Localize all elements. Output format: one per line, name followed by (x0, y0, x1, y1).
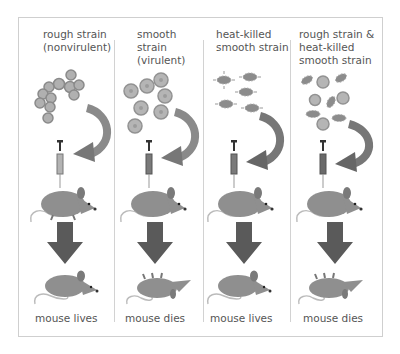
mouse-alive-icon (206, 268, 278, 308)
column-rough-strain: rough strain (nonvirulent) (19, 18, 114, 338)
down-arrow-icon (47, 222, 83, 264)
column-smooth-strain: smooth strain (virulent) (115, 18, 203, 338)
curved-arrow-icon (157, 110, 203, 166)
column-title: smooth strain (virulent) (137, 28, 203, 67)
outcome-label: mouse lives (210, 312, 273, 324)
column-mixture: rough strain & heat-killed smooth strain (291, 18, 383, 338)
down-arrow-icon (317, 222, 353, 264)
column-title: rough strain & heat-killed smooth strain (299, 28, 374, 67)
column-title: heat-killed smooth strain (216, 28, 289, 54)
column-heat-killed: heat-killed smooth strain (204, 18, 290, 338)
outcome-label: mouse dies (125, 312, 185, 324)
column-title: rough strain (nonvirulent) (43, 28, 111, 54)
mouse-dead-icon (297, 272, 367, 308)
down-arrow-icon (226, 222, 262, 264)
curved-arrow-icon (242, 114, 288, 170)
mouse-dead-icon (125, 272, 195, 308)
outcome-label: mouse lives (35, 312, 98, 324)
outcome-label: mouse dies (303, 312, 363, 324)
curved-arrow-icon (331, 122, 377, 172)
curved-arrow-icon (69, 106, 115, 162)
diagram-frame: rough strain (nonvirulent) (18, 17, 383, 337)
mouse-alive-icon (33, 268, 105, 308)
down-arrow-icon (137, 222, 173, 264)
